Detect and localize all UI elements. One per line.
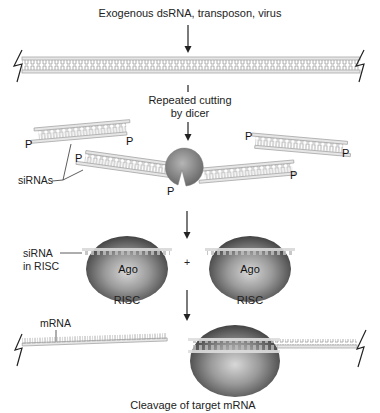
down-arrow-icon (185, 122, 192, 141)
dicer-pacman-icon (165, 148, 203, 186)
sirnas-label: siRNAs (18, 174, 53, 186)
sirna-in-risc-label-line1: siRNA (23, 247, 53, 259)
risc-label-left: RISC (114, 294, 140, 306)
down-arrow-icon (185, 25, 192, 53)
risc-bound-mrna (188, 325, 280, 397)
down-arrow-icon (184, 290, 191, 321)
ago-label: Ago (118, 263, 138, 275)
final-label: Cleavage of target mRNA (130, 399, 256, 411)
risc-label-right: RISC (237, 294, 263, 306)
zigzag-break-icon (15, 334, 22, 366)
sirna-duplex (251, 133, 352, 157)
phosphate-label: P (167, 185, 174, 197)
phosphate-label: P (126, 135, 133, 147)
zigzag-break-icon (14, 50, 22, 82)
plus-sign: + (184, 256, 190, 268)
mrna-fragment-right (272, 339, 357, 348)
ago-protein (190, 325, 280, 397)
dicer-label-line2: by dicer (171, 107, 210, 119)
phosphate-label: P (25, 138, 32, 150)
dicer-label-line1: Repeated cutting (148, 94, 231, 106)
zigzag-break-icon (357, 330, 366, 367)
phosphate-label: P (342, 147, 349, 159)
down-arrow-icon (184, 211, 191, 239)
sirna-duplex (30, 120, 131, 144)
long-dsrna (22, 57, 360, 73)
mrna-label: mRNA (40, 317, 71, 329)
ago-label: Ago (240, 263, 260, 275)
phosphate-label: P (290, 169, 297, 181)
sirna-duplex (76, 149, 177, 178)
sirna-in-risc-label-line2: in RISC (23, 260, 60, 272)
input-label: Exogenous dsRNA, transposon, virus (99, 7, 282, 19)
rnai-diagram: Exogenous dsRNA, transposon, virus Repea… (0, 0, 380, 413)
sirna-duplex (198, 160, 295, 183)
risc-complex-left: Ago (82, 236, 172, 302)
mrna-fragment-left (22, 333, 167, 346)
risc-complex-right: Ago (205, 236, 295, 302)
sirnas-leader (52, 180, 63, 181)
phosphate-label: P (75, 152, 82, 164)
phosphate-label: P (245, 130, 252, 142)
